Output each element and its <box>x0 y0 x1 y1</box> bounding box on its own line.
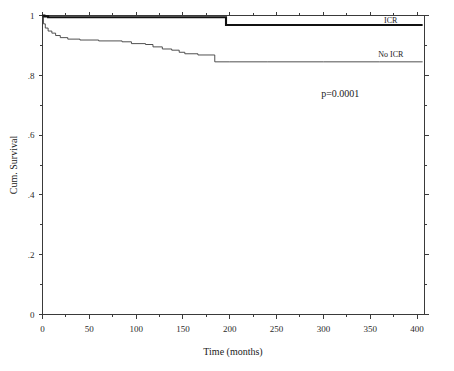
y-tick-label: 0 <box>30 310 35 320</box>
y-tick-label: .2 <box>28 250 35 260</box>
y-axis-ticks-right <box>425 16 429 315</box>
plot-border <box>43 16 425 315</box>
x-tick-label: 150 <box>176 324 190 334</box>
p-value-annotation: p=0.0001 <box>321 88 359 99</box>
x-tick-label: 0 <box>40 324 45 334</box>
x-tick-label: 250 <box>270 324 284 334</box>
x-tick-label: 400 <box>410 324 424 334</box>
x-axis-tick-labels: 050100150200250300350400 <box>40 324 424 334</box>
series-label-no-icr: No ICR <box>378 50 404 59</box>
y-axis-title: Cum. Survival <box>8 136 19 195</box>
y-axis-ticks <box>39 16 43 315</box>
survival-curve-no-icr <box>43 16 423 62</box>
plot-frame <box>43 16 425 315</box>
x-axis-title: Time (months) <box>203 346 262 358</box>
x-tick-label: 350 <box>363 324 377 334</box>
y-tick-label: .4 <box>28 190 35 200</box>
survival-curve-icr <box>43 16 423 26</box>
x-tick-label: 200 <box>223 324 237 334</box>
x-axis-ticks <box>43 315 418 319</box>
y-axis-tick-labels: 0.2.4.6.81 <box>28 11 35 320</box>
x-tick-label: 100 <box>129 324 143 334</box>
kaplan-meier-chart: 050100150200250300350400 0.2.4.6.81 ICR … <box>0 0 454 371</box>
y-tick-label: 1 <box>30 11 35 21</box>
y-tick-label: .6 <box>28 130 35 140</box>
x-tick-label: 50 <box>85 324 95 334</box>
y-tick-label: .8 <box>28 71 35 81</box>
x-axis-ticks-top <box>43 12 418 16</box>
series-label-icr: ICR <box>384 16 398 25</box>
x-tick-label: 300 <box>317 324 331 334</box>
chart-canvas: 050100150200250300350400 0.2.4.6.81 ICR … <box>0 0 454 371</box>
